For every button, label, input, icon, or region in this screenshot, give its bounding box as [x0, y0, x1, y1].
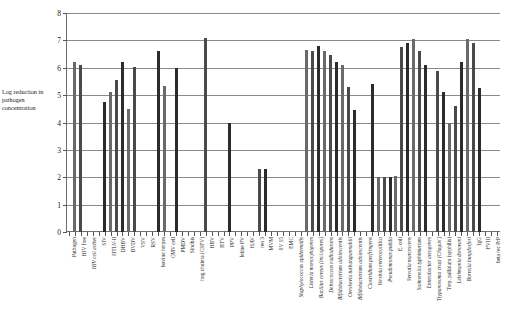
x-tick-mark: [241, 232, 242, 236]
x-tick-mark: [390, 232, 391, 236]
x-tick-mark: [224, 232, 225, 236]
x-tick-mark: [420, 232, 421, 236]
x-tick-mark: [93, 232, 94, 236]
x-axis-label: PMDV: [181, 237, 186, 253]
x-tick-mark: [99, 232, 100, 236]
x-tick-mark: [164, 232, 165, 236]
bar: [341, 65, 344, 232]
bar: [442, 92, 445, 232]
bar: [175, 68, 178, 232]
x-tick-mark: [491, 232, 492, 236]
bar: [258, 169, 261, 232]
x-tick-mark: [158, 232, 159, 236]
x-tick-mark: [325, 232, 326, 236]
x-tick-mark: [366, 232, 367, 236]
y-tick-label: 5: [57, 91, 61, 100]
x-tick-mark: [360, 232, 361, 236]
x-tick-mark: [449, 232, 450, 236]
bar: [335, 62, 338, 232]
x-axis-label: Salmonella typhimurium: [417, 237, 422, 290]
bar: [436, 71, 439, 233]
x-tick-mark: [485, 232, 486, 236]
x-axis-label: Bacillus cereus (incl.spores): [319, 237, 324, 298]
bar-chart: Log reduction in pathogen concentration …: [0, 0, 512, 319]
bar: [323, 51, 326, 232]
x-axis-label: RSV: [151, 237, 156, 248]
x-tick-mark: [414, 232, 415, 236]
bar: [383, 177, 386, 232]
x-tick-mark: [319, 232, 320, 236]
x-tick-mark: [307, 232, 308, 236]
x-axis-label: PPV: [230, 237, 235, 247]
x-tick-mark: [479, 232, 480, 236]
x-axis-label: E. coli: [398, 237, 403, 251]
bar-series: [66, 13, 500, 232]
bar: [103, 102, 106, 232]
x-tick-mark: [188, 232, 189, 236]
x-tick-mark: [176, 232, 177, 236]
x-tick-mark: [337, 232, 338, 236]
x-axis-label: MVM: [269, 237, 274, 250]
x-tick-mark: [444, 232, 445, 236]
x-axis-label: Sindbis: [190, 237, 195, 253]
x-tick-mark: [438, 232, 439, 236]
bar: [163, 86, 166, 232]
x-tick-mark: [194, 232, 195, 236]
y-tick-label: 7: [57, 36, 61, 45]
x-axis-label: hog cholera (CSFV): [200, 237, 205, 281]
x-tick-mark: [301, 232, 302, 236]
x-axis-label: SV 15: [279, 237, 284, 251]
x-axis-label: VSV: [141, 237, 146, 248]
x-tick-mark: [354, 232, 355, 236]
x-tick-mark: [432, 232, 433, 236]
x-tick-mark: [265, 232, 266, 236]
x-axis-label: DHBV: [121, 237, 126, 252]
x-tick-mark: [152, 232, 153, 236]
x-tick-mark: [111, 232, 112, 236]
x-axis-label: SIV: [102, 237, 107, 246]
x-axis-label: Enterobacter aerogenes: [427, 237, 432, 289]
x-tick-mark: [455, 232, 456, 236]
x-tick-mark: [182, 232, 183, 236]
x-axis-label: BVDV: [131, 237, 136, 252]
bar: [347, 87, 350, 232]
x-axis-labels: PathogenHIV freeHIV cell activeSIVHTLV-I…: [66, 237, 500, 319]
bar: [311, 51, 314, 232]
x-axis-label: EMC: [289, 237, 294, 249]
x-axis-label: HAV: [250, 237, 255, 248]
x-tick-mark: [253, 232, 254, 236]
bar: [329, 55, 332, 232]
x-tick-mark: [140, 232, 141, 236]
x-tick-mark: [313, 232, 314, 236]
x-tick-mark: [473, 232, 474, 236]
y-tick-label: 4: [57, 118, 61, 127]
bar: [228, 123, 231, 233]
bar: [418, 51, 421, 232]
x-tick-mark: [69, 232, 70, 236]
bar: [127, 109, 130, 232]
x-axis-label: Staphylococcus epidermidis: [299, 237, 304, 297]
x-tick-mark: [378, 232, 379, 236]
x-tick-mark: [122, 232, 123, 236]
x-axis-label: Yersinia enterocolitica: [378, 237, 383, 286]
x-axis-label: HIV cell active: [92, 237, 97, 269]
plot-area: 012345678: [66, 13, 500, 232]
x-tick-mark: [467, 232, 468, 236]
x-tick-mark: [295, 232, 296, 236]
x-axis-label: Bifidobacterium adolescentis: [358, 237, 363, 300]
x-axis-label: Trypanosoma cruzi (Chagas'): [437, 237, 442, 301]
y-tick-label: 0: [57, 228, 61, 237]
x-tick-mark: [271, 232, 272, 236]
x-tick-mark: [146, 232, 147, 236]
bar: [460, 62, 463, 232]
x-tick-mark: [289, 232, 290, 236]
x-tick-mark: [259, 232, 260, 236]
x-tick-mark: [408, 232, 409, 236]
bar: [73, 62, 76, 232]
x-tick-mark: [402, 232, 403, 236]
x-tick-mark: [277, 232, 278, 236]
bar: [466, 39, 469, 232]
x-tick-mark: [206, 232, 207, 236]
x-tick-mark: [461, 232, 462, 236]
x-tick-mark: [396, 232, 397, 236]
